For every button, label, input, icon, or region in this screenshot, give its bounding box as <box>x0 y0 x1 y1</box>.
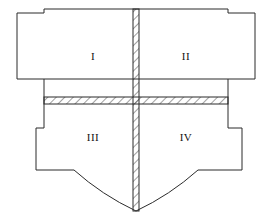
quadrant-label-ii: II <box>182 50 190 62</box>
quadrant-label-i: I <box>91 50 95 62</box>
engineering-diagram: I II III IV <box>0 0 272 213</box>
vertical-hatched-web <box>133 9 139 211</box>
diagram-canvas <box>0 0 272 213</box>
quadrant-label-iii: III <box>87 131 100 143</box>
quadrant-label-iv: IV <box>180 131 193 143</box>
